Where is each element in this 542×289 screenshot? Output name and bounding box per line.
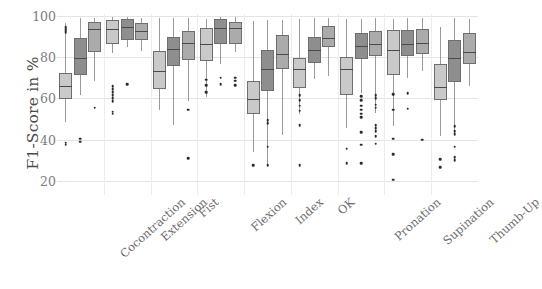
outlier-point [65, 31, 68, 34]
box [261, 50, 274, 91]
outlier-point [234, 80, 237, 83]
outlier-point [439, 158, 442, 161]
median-line [276, 54, 289, 55]
x-tick-label: Pronation [392, 195, 444, 244]
box [434, 64, 447, 100]
box [200, 28, 213, 61]
box [387, 30, 400, 74]
outlier-point [266, 122, 269, 125]
median-line [153, 71, 166, 72]
outlier-point [453, 125, 456, 128]
outlier-point [360, 95, 363, 98]
outlier-point [266, 145, 269, 148]
outlier-point [360, 99, 363, 102]
outlier-point [126, 83, 129, 86]
median-line [167, 49, 180, 50]
box [322, 26, 335, 47]
plot-area [57, 14, 478, 191]
x-tick-label: Supination [440, 195, 496, 248]
outlier-point [187, 108, 190, 111]
outlier-point [219, 83, 222, 86]
category-separator [338, 14, 339, 195]
outlier-point [392, 178, 395, 181]
category-separator [291, 14, 292, 195]
median-line [340, 69, 353, 70]
outlier-point [94, 106, 97, 109]
outlier-point [392, 93, 395, 96]
outlier-point [219, 77, 222, 80]
outlier-point [374, 97, 377, 100]
median-line [88, 29, 101, 30]
box [74, 38, 87, 75]
median-line [229, 28, 242, 29]
median-line [182, 43, 195, 44]
box [293, 58, 306, 88]
outlier-point [298, 124, 301, 127]
box [247, 81, 260, 114]
box [448, 40, 461, 82]
category-separator [197, 14, 198, 195]
x-tick-label: Flexion [248, 195, 289, 234]
outlier-point [453, 159, 456, 162]
outlier-point [374, 106, 377, 109]
outlier-point [407, 92, 410, 95]
median-line [59, 86, 72, 87]
median-line [261, 69, 274, 70]
box [463, 33, 476, 65]
box [416, 29, 429, 54]
box [167, 37, 180, 67]
outlier-point [453, 133, 456, 136]
gridline [57, 181, 478, 182]
category-separator [104, 14, 105, 195]
box [340, 57, 353, 95]
outlier-point [374, 135, 377, 138]
outlier-point [187, 157, 190, 160]
outlier-point [360, 104, 363, 107]
y-tick-label: 100 [22, 9, 56, 24]
outlier-point [298, 104, 301, 107]
median-line [387, 50, 400, 51]
box [214, 19, 227, 44]
median-line [293, 69, 306, 70]
outlier-point [266, 164, 269, 167]
outlier-point [392, 137, 395, 140]
outlier-point [360, 108, 363, 111]
outlier-point [392, 108, 395, 111]
x-tick-label: OK [335, 195, 358, 217]
outlier-point [374, 142, 377, 145]
median-line [355, 46, 368, 47]
median-line [74, 58, 87, 59]
outlier-point [79, 140, 82, 143]
box-whisker [173, 18, 174, 125]
box-whisker [267, 20, 268, 164]
box [121, 19, 134, 40]
box [229, 22, 242, 44]
x-tick-label: Index [292, 195, 326, 227]
box [88, 22, 101, 52]
median-line [322, 38, 335, 39]
outlier-point [205, 84, 208, 87]
median-line [106, 29, 119, 30]
category-separator [431, 14, 432, 195]
category-separator [151, 14, 152, 195]
y-tick-label: 40 [22, 132, 56, 147]
outlier-point [360, 131, 363, 134]
y-tick-label: 80 [22, 50, 56, 65]
outlier-point [360, 143, 363, 146]
outlier-point [439, 166, 442, 169]
outlier-point [205, 91, 208, 94]
outlier-point [345, 162, 348, 165]
y-tick-label: 60 [22, 91, 56, 106]
outlier-point [65, 143, 68, 146]
outlier-point [360, 162, 363, 165]
box [106, 20, 119, 44]
median-line [214, 28, 227, 29]
median-line [463, 52, 476, 53]
box [182, 31, 195, 60]
outlier-point [111, 113, 114, 116]
outlier-point [298, 94, 301, 97]
outlier-point [298, 164, 301, 167]
outlier-point [298, 99, 301, 102]
median-line [247, 99, 260, 100]
